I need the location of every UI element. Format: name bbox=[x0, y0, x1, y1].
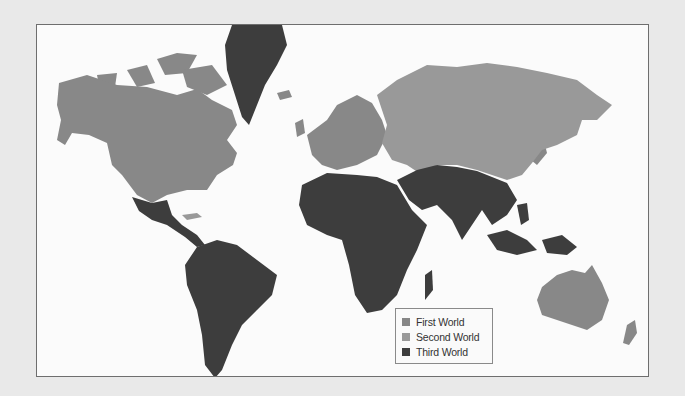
legend-label: First World bbox=[416, 316, 464, 328]
legend-item-second-world: Second World bbox=[402, 329, 486, 344]
legend-item-first-world: First World bbox=[402, 314, 486, 329]
first-world-swatch bbox=[402, 318, 410, 326]
map-svg bbox=[37, 25, 649, 377]
legend-item-third-world: Third World bbox=[402, 344, 486, 359]
second-world-swatch bbox=[402, 333, 410, 341]
map-legend: First World Second World Third World bbox=[395, 308, 493, 364]
legend-label: Third World bbox=[416, 346, 468, 358]
third-world-swatch bbox=[402, 348, 410, 356]
world-map: First World Second World Third World bbox=[36, 24, 649, 377]
legend-label: Second World bbox=[416, 331, 479, 343]
